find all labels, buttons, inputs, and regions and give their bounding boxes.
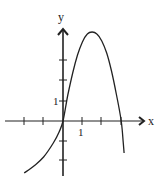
y-tick-label-1: 1 (53, 95, 59, 107)
function-curve (24, 32, 124, 173)
y-axis-label: y (58, 10, 64, 24)
x-axis-label: x (148, 114, 154, 128)
x-tick-label-1: 1 (78, 126, 84, 138)
function-graph: y x 1 1 (0, 0, 161, 192)
